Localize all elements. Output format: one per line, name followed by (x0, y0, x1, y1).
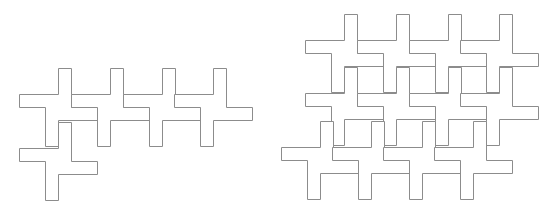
pinwheel-cross (175, 69, 253, 147)
tiling-diagram (0, 0, 556, 216)
right-tiling (282, 15, 539, 200)
pinwheel-cross (20, 123, 98, 201)
left-tiling (20, 69, 253, 201)
pinwheel-cross (461, 68, 539, 146)
